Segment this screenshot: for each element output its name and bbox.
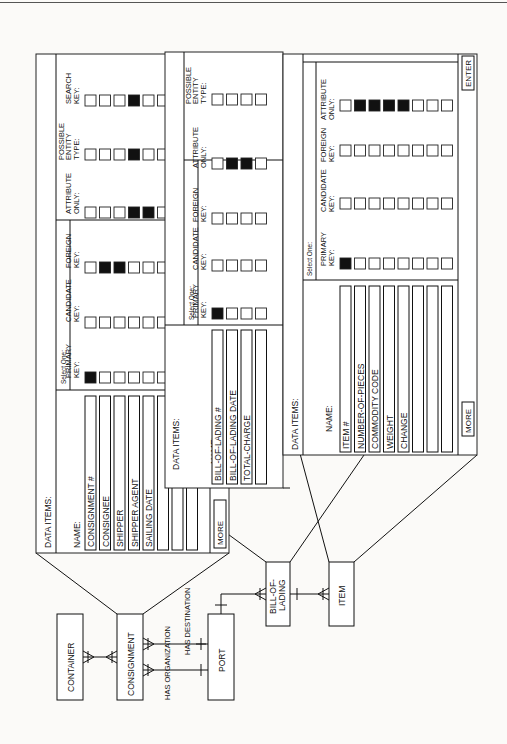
checkbox-checked[interactable]	[398, 100, 409, 111]
entity-container[interactable]: CONTAINER	[57, 614, 83, 700]
entity-item[interactable]: ITEM	[329, 562, 354, 626]
checkbox[interactable]	[398, 145, 409, 156]
checkbox[interactable]	[129, 372, 140, 383]
checkbox[interactable]	[355, 198, 366, 209]
data-item-field[interactable]	[256, 330, 267, 484]
checkbox[interactable]	[212, 260, 223, 271]
checkbox[interactable]	[256, 94, 267, 105]
checkbox[interactable]	[114, 149, 125, 160]
checkbox-checked[interactable]	[355, 100, 366, 111]
checkbox[interactable]	[241, 94, 252, 105]
checkbox[interactable]	[227, 213, 238, 224]
checkbox[interactable]	[114, 207, 125, 218]
data-item-field[interactable]	[427, 286, 438, 452]
more-button-label[interactable]: MORE	[464, 409, 473, 433]
checkbox[interactable]	[143, 372, 154, 383]
checkbox-checked[interactable]	[227, 158, 238, 169]
data-item-name: BILL-OF-LADING DATE	[228, 390, 238, 481]
checkbox[interactable]	[100, 372, 111, 383]
checkbox-checked[interactable]	[241, 158, 252, 169]
checkbox[interactable]	[143, 262, 154, 273]
checkbox-checked[interactable]	[143, 207, 154, 218]
checkbox[interactable]	[227, 260, 238, 271]
checkbox[interactable]	[114, 95, 125, 106]
checkbox[interactable]	[256, 308, 267, 319]
checkbox-checked[interactable]	[212, 308, 223, 319]
checkbox[interactable]	[85, 317, 96, 328]
checkbox[interactable]	[114, 317, 125, 328]
checkbox[interactable]	[442, 100, 453, 111]
checkbox[interactable]	[129, 317, 140, 328]
checkbox[interactable]	[384, 198, 395, 209]
checkbox[interactable]	[143, 95, 154, 106]
checkbox[interactable]	[85, 95, 96, 106]
checkbox[interactable]	[114, 372, 125, 383]
checkbox[interactable]	[427, 258, 438, 269]
name-label: NAME:	[72, 521, 82, 548]
checkbox[interactable]	[241, 213, 252, 224]
checkbox[interactable]	[369, 145, 380, 156]
checkbox[interactable]	[413, 198, 424, 209]
checkbox-checked[interactable]	[129, 207, 140, 218]
checkbox[interactable]	[355, 258, 366, 269]
checkbox[interactable]	[442, 145, 453, 156]
checkbox[interactable]	[129, 262, 140, 273]
checkbox[interactable]	[340, 145, 351, 156]
data-item-field[interactable]	[413, 286, 424, 452]
checkbox[interactable]	[340, 198, 351, 209]
data-item-field[interactable]	[442, 286, 453, 452]
checkbox[interactable]	[256, 158, 267, 169]
entity-port[interactable]: PORT	[208, 614, 234, 700]
checkbox[interactable]	[100, 317, 111, 328]
checkbox-checked[interactable]	[85, 372, 96, 383]
checkbox[interactable]	[143, 149, 154, 160]
checkbox[interactable]	[85, 207, 96, 218]
checkbox[interactable]	[369, 198, 380, 209]
checkbox[interactable]	[143, 317, 154, 328]
checkbox[interactable]	[427, 100, 438, 111]
more-button-label[interactable]: MORE	[216, 521, 225, 545]
checkbox-checked[interactable]	[100, 262, 111, 273]
checkbox[interactable]	[384, 145, 395, 156]
checkbox-checked[interactable]	[129, 149, 140, 160]
checkbox[interactable]	[427, 198, 438, 209]
relationship-has-destination: HAS DESTINATION	[143, 588, 208, 655]
checkbox[interactable]	[256, 260, 267, 271]
checkbox[interactable]	[100, 149, 111, 160]
checkbox[interactable]	[427, 145, 438, 156]
checkbox[interactable]	[384, 258, 395, 269]
checkbox-checked[interactable]	[384, 100, 395, 111]
checkbox[interactable]	[100, 95, 111, 106]
checkbox[interactable]	[85, 149, 96, 160]
entity-bill-of-lading[interactable]: BILL-OF- LADING	[266, 562, 290, 626]
checkbox[interactable]	[212, 94, 223, 105]
entity-label: LADING	[277, 579, 287, 611]
checkbox[interactable]	[398, 198, 409, 209]
checkbox-checked[interactable]	[114, 262, 125, 273]
checkbox[interactable]	[413, 145, 424, 156]
checkbox[interactable]	[256, 213, 267, 224]
checkbox[interactable]	[398, 258, 409, 269]
checkbox[interactable]	[413, 258, 424, 269]
checkbox[interactable]	[227, 308, 238, 319]
checkbox[interactable]	[85, 262, 96, 273]
checkbox[interactable]	[442, 258, 453, 269]
checkbox[interactable]	[227, 94, 238, 105]
column-label: TYPE:	[72, 138, 81, 160]
checkbox-checked[interactable]	[129, 95, 140, 106]
checkbox[interactable]	[442, 198, 453, 209]
checkbox[interactable]	[212, 158, 223, 169]
checkbox[interactable]	[355, 145, 366, 156]
checkbox[interactable]	[100, 207, 111, 218]
entity-consignment[interactable]: CONSIGNMENT	[117, 614, 143, 700]
checkbox-checked[interactable]	[340, 258, 351, 269]
checkbox-checked[interactable]	[369, 100, 380, 111]
checkbox[interactable]	[413, 100, 424, 111]
checkbox[interactable]	[369, 258, 380, 269]
checkbox[interactable]	[340, 100, 351, 111]
checkbox[interactable]	[241, 260, 252, 271]
checkbox[interactable]	[241, 308, 252, 319]
enter-button-label[interactable]: ENTER	[464, 60, 473, 87]
checkbox[interactable]	[212, 213, 223, 224]
panel-bill-of-lading: DATA ITEMS: Select One: NAME: BILL-OF-LA…	[165, 52, 283, 488]
